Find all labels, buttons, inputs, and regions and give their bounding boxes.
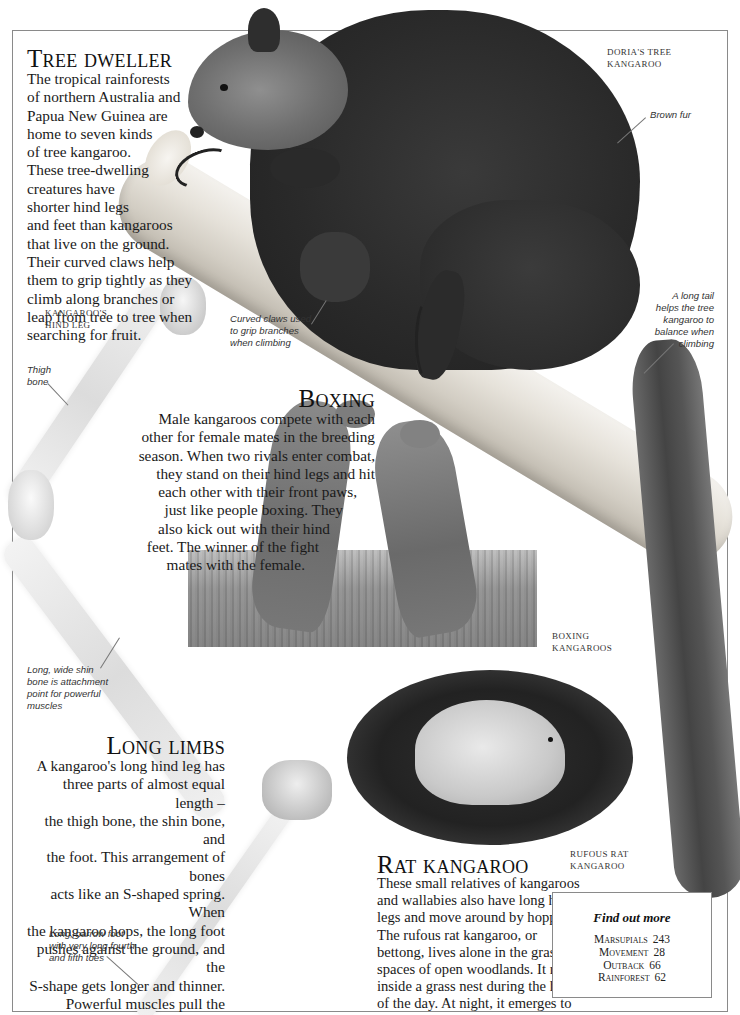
find-out-more-list: Marsupials243 Movement28 Outback66 Rainf… <box>553 933 711 984</box>
label-line: bone is attachment <box>27 676 108 688</box>
hind-claw-shape <box>415 300 439 380</box>
text-line: season. When two rivals enter combat, <box>118 447 375 465</box>
text-line: A kangaroo's long hind leg has <box>27 757 225 775</box>
text-line: Male kangaroos compete with each <box>118 410 375 428</box>
text-line: of the day. At night, it emerges to <box>377 995 617 1012</box>
label-line: Long, narrow foot <box>49 928 135 940</box>
caption-line: DORIA'S TREE <box>607 46 672 58</box>
cross-reference-label: Marsupials <box>594 933 648 945</box>
text-line: Papua New Guinea are <box>27 107 257 125</box>
label-line: and fifth toes <box>49 952 135 964</box>
kangaroo-arm-shape <box>270 148 340 188</box>
tree-dweller-section: Tree dweller The tropical rainforests of… <box>27 46 257 344</box>
long-limbs-section: Long limbs <box>27 733 225 759</box>
text-line: mates with the female. <box>118 556 375 574</box>
text-line: other for female mates in the breeding <box>118 428 375 446</box>
text-line: also kick out with their hind <box>118 520 375 538</box>
find-out-more-title: Find out more <box>553 910 711 926</box>
cross-reference-label: Movement <box>599 946 648 958</box>
text-line: that live on the ground. <box>27 235 257 253</box>
caption-line: KANGAROO'S <box>45 307 107 319</box>
kangaroo-foot-shape <box>300 232 370 302</box>
long-limbs-body: A kangaroo's long hind leg has three par… <box>27 757 225 1015</box>
label-line: Long, wide shin <box>27 664 108 676</box>
doria-tree-kangaroo-caption: DORIA'S TREE KANGAROO <box>607 46 672 70</box>
long-limbs-heading: Long limbs <box>27 733 225 759</box>
boxing-body: Male kangaroos compete with each other f… <box>118 410 375 575</box>
boxing-heading: Boxing <box>118 386 375 412</box>
text-line: acts like an S-shaped spring. When <box>27 885 225 922</box>
knee-joint-shape <box>8 470 54 540</box>
text-line: of tree kangaroo. <box>27 143 257 161</box>
text-line: just like people boxing. They <box>118 501 375 519</box>
long-tail-label: A long tail helps the tree kangaroo to b… <box>640 290 714 350</box>
cross-reference-page: 28 <box>653 946 665 958</box>
caption-line: BOXING <box>552 630 612 642</box>
text-line: home to seven kinds <box>27 125 257 143</box>
shin-bone-label: Long, wide shin bone is attachment point… <box>27 664 108 712</box>
label-line: A long tail <box>640 290 714 302</box>
caption-line: KANGAROO <box>607 58 672 70</box>
text-line: These tree-dwelling <box>27 161 257 179</box>
text-line: them to grip tightly as they <box>27 271 257 289</box>
text-line: feet. The winner of the fight <box>118 538 375 556</box>
cross-reference-link[interactable]: Outback66 <box>553 959 711 972</box>
label-line: when climbing <box>230 337 311 349</box>
cross-reference-link[interactable]: Marsupials243 <box>553 933 711 946</box>
label-line: kangaroo to <box>640 314 714 326</box>
cross-reference-page: 66 <box>649 959 661 971</box>
text-line: the thigh bone, the shin bone, and <box>27 812 225 849</box>
rat-kangaroo-eye <box>548 737 553 742</box>
find-out-more-box: Find out more Marsupials243 Movement28 O… <box>552 892 712 998</box>
cross-reference-page: 243 <box>653 933 670 945</box>
rat-kangaroo-shape <box>415 700 565 805</box>
label-line: Curved claws used <box>230 313 311 325</box>
kangaroo-right-head <box>400 420 440 448</box>
label-line: Thigh <box>27 364 51 376</box>
label-line: with very long fourth <box>49 940 135 952</box>
text-line: the foot. This arrangement of bones <box>27 848 225 885</box>
cross-reference-page: 62 <box>655 971 667 983</box>
hind-leg-caption: KANGAROO'S HIND LEG <box>45 307 107 331</box>
text-line: shorter hind legs <box>27 198 257 216</box>
caption-line: HIND LEG <box>45 319 107 331</box>
text-line: S-shape gets longer and thinner. <box>27 977 225 995</box>
cross-reference-link[interactable]: Movement28 <box>553 946 711 959</box>
tree-dweller-heading: Tree dweller <box>27 46 257 72</box>
text-line: three parts of almost equal length – <box>27 775 225 812</box>
foot-bone-label: Long, narrow foot with very long fourth … <box>49 928 135 964</box>
brown-fur-label: Brown fur <box>650 109 691 121</box>
text-line: The tropical rainforests <box>27 70 257 88</box>
label-line: climbing <box>640 338 714 350</box>
label-line: helps the tree <box>640 302 714 314</box>
boxing-kangaroos-caption: BOXING KANGAROOS <box>552 630 612 654</box>
ankle-joint-shape <box>262 760 332 820</box>
label-line: balance when <box>640 326 714 338</box>
text-line: creatures have <box>27 180 257 198</box>
label-line: point for powerful <box>27 688 108 700</box>
boxing-section: Boxing Male kangaroos compete with each … <box>118 386 375 575</box>
text-line: and feet than kangaroos <box>27 216 257 234</box>
text-line: of northern Australia and <box>27 88 257 106</box>
curved-claws-label: Curved claws used to grip branches when … <box>230 313 311 349</box>
label-line: to grip branches <box>230 325 311 337</box>
cross-reference-label: Outback <box>603 959 644 971</box>
text-line: they stand on their hind legs and hit <box>118 465 375 483</box>
text-line: Their curved claws help <box>27 253 257 271</box>
text-line: climb along branches or <box>27 290 257 308</box>
tree-dweller-body: The tropical rainforests of northern Aus… <box>27 70 257 344</box>
text-line: Powerful muscles pull the bones to <box>27 995 225 1015</box>
text-line: These small relatives of kangaroos <box>377 875 617 892</box>
caption-line: KANGAROOS <box>552 642 612 654</box>
cross-reference-link[interactable]: Rainforest62 <box>553 971 711 984</box>
text-line: each other with their front paws, <box>118 483 375 501</box>
cross-reference-label: Rainforest <box>598 971 650 983</box>
label-line: muscles <box>27 700 108 712</box>
